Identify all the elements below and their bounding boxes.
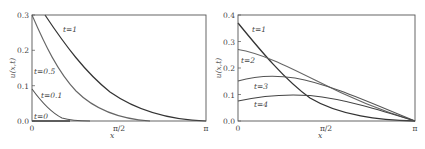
left-label-t0.5: t=0.5 — [34, 67, 55, 76]
left-xtick-1: π/2 — [113, 124, 125, 133]
left-ylabel: u(x,t) — [8, 58, 17, 78]
left-ytick-0: 0.0 — [17, 117, 29, 126]
right-ytick-4: 0.4 — [223, 11, 235, 20]
left-xtick-0: 0 — [30, 124, 35, 133]
right-ytick-1: 0.1 — [223, 91, 235, 100]
left-ytick-3: 0.3 — [17, 11, 29, 20]
right-ytick-2: 0.2 — [223, 64, 235, 73]
right-ylabel: u(x,t) — [214, 58, 223, 78]
right-label-t1: t=1 — [252, 25, 266, 34]
right-ytick-0: 0.0 — [223, 117, 235, 126]
left-ytick-2: 0.2 — [17, 46, 29, 55]
right-xtick-2: π — [413, 124, 418, 133]
left-label-t0.1: t=0.1 — [41, 91, 62, 100]
figure: 0.0 0.1 0.2 0.3 0 π/2 π x u(x,t) t=1 t=0… — [0, 0, 425, 149]
left-label-t0: t=0 — [34, 112, 48, 121]
left-xtick-2: π — [204, 124, 209, 133]
right-label-t3: t=3 — [254, 82, 268, 91]
right-label-t4: t=4 — [254, 100, 268, 109]
right-label-t2: t=2 — [241, 56, 255, 65]
right-chart: 0.0 0.1 0.2 0.3 0.4 0 π/2 π x u(x,t) t=1… — [214, 11, 418, 140]
left-ytick-1: 0.1 — [17, 82, 29, 91]
right-ytick-3: 0.3 — [223, 38, 235, 47]
right-xtick-0: 0 — [236, 124, 241, 133]
left-chart: 0.0 0.1 0.2 0.3 0 π/2 π x u(x,t) t=1 t=0… — [8, 11, 209, 140]
left-label-t1: t=1 — [63, 25, 77, 34]
